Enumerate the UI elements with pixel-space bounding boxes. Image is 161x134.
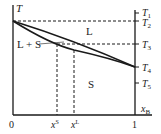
label-t3: T3 xyxy=(142,39,152,52)
y-axis-label: T xyxy=(16,2,23,14)
region-solid-label: S xyxy=(88,78,94,90)
region-two-phase-label: L + S xyxy=(17,38,41,50)
label-t4: T4 xyxy=(142,62,152,75)
xl-label: xL xyxy=(70,119,79,130)
x-tick-zero: 0 xyxy=(9,119,14,130)
x-axis-label: xB xyxy=(140,103,150,116)
region-liquid-label: L xyxy=(86,25,93,37)
label-t5: T5 xyxy=(142,78,152,91)
xs-label: xS xyxy=(50,119,59,130)
x-tick-one: 1 xyxy=(132,119,137,130)
phase-diagram: T T1 T2 T3 T4 T5 xB L L + S S 0 1 xS xL xyxy=(0,0,161,134)
